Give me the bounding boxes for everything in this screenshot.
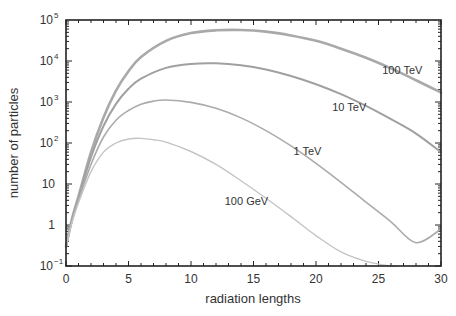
y-tick-label: 10 [40, 259, 54, 273]
x-tick-label: 10 [184, 272, 198, 286]
x-tick-label: 5 [125, 272, 132, 286]
svg-text:4: 4 [54, 52, 59, 61]
y-tick-label: 10 [42, 177, 56, 191]
series-label: 10 TeV [332, 101, 367, 113]
y-axis-label: number of particles [6, 87, 21, 198]
y-tick-label: 10 [40, 13, 54, 27]
svg-text:2: 2 [54, 134, 59, 143]
chart: 10−1110102103104105 051015202530 100 TeV… [0, 0, 456, 316]
svg-text:3: 3 [54, 93, 59, 102]
series-label: 100 TeV [382, 64, 423, 76]
series-label: 1 TeV [294, 145, 323, 157]
x-tick-label: 30 [434, 272, 448, 286]
series-line [66, 63, 441, 246]
axis-ticks [66, 20, 441, 266]
series-label: 100 GeV [225, 195, 269, 207]
x-tick-label: 25 [372, 272, 386, 286]
y-tick-label: 10 [40, 54, 54, 68]
x-tick-label: 0 [63, 272, 70, 286]
x-tick-label: 20 [309, 272, 323, 286]
series-labels: 100 TeV10 TeV1 TeV100 GeV [225, 64, 423, 207]
series-line [66, 100, 441, 246]
x-tick-label: 15 [247, 272, 261, 286]
x-axis-tick-labels: 051015202530 [63, 272, 448, 286]
x-axis-label: radiation lengths [205, 291, 301, 306]
y-axis-tick-labels: 10−1110102103104105 [40, 11, 64, 273]
svg-text:−1: −1 [54, 257, 64, 266]
y-tick-label: 1 [48, 218, 55, 232]
y-tick-label: 10 [40, 136, 54, 150]
plot-frame [66, 20, 441, 266]
series-line [66, 30, 441, 247]
y-tick-label: 10 [40, 95, 54, 109]
svg-text:5: 5 [54, 11, 59, 20]
